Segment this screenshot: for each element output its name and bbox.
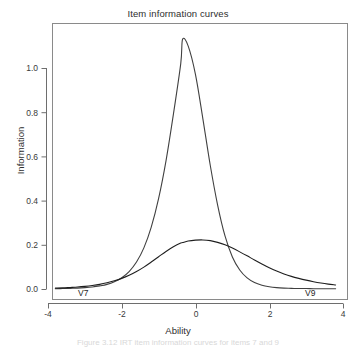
- y-axis-title: Information: [15, 91, 26, 211]
- y-tick-label-1: 0.2: [8, 240, 38, 250]
- y-axis: [42, 68, 47, 290]
- curve-label-v9: V9: [305, 288, 315, 298]
- plot-area: [0, 0, 356, 348]
- page-caption: Figure 3.12 IRT item information curves …: [0, 338, 356, 348]
- x-tick-label-3: 2: [255, 309, 285, 319]
- x-axis: [48, 304, 344, 309]
- curve-label-v7: V7: [78, 288, 88, 298]
- x-tick-label-0: -4: [33, 309, 63, 319]
- curve-v9: [55, 240, 335, 288]
- curve-v7: [55, 38, 335, 289]
- x-axis-title: Ability: [0, 325, 356, 336]
- plot-frame: [53, 24, 348, 300]
- x-tick-label-2: 0: [181, 309, 211, 319]
- x-tick-label-1: -2: [107, 309, 137, 319]
- y-tick-label-5: 1.0: [8, 63, 38, 73]
- chart-figure: Item information curves -4 -2 0: [0, 0, 356, 348]
- y-tick-label-0: 0.0: [8, 284, 38, 294]
- x-tick-label-4: 4: [328, 309, 356, 319]
